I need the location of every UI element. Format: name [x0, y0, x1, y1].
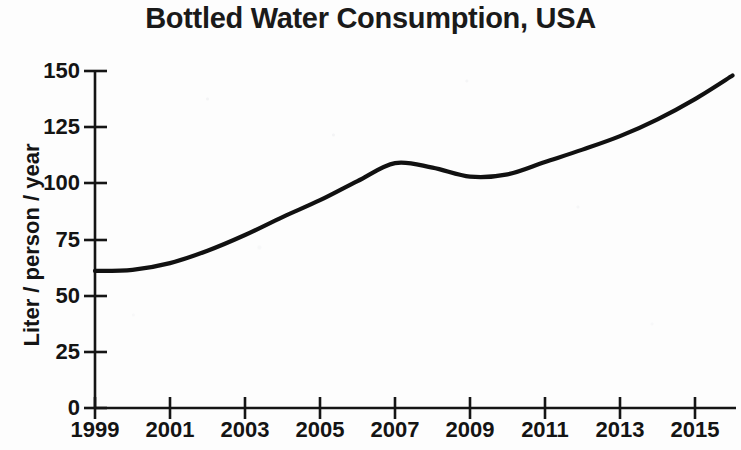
chart-page: Bottled Water Consumption, USA Liter / p… — [0, 0, 741, 450]
data-series-line — [95, 75, 733, 270]
plot-area — [0, 0, 741, 450]
